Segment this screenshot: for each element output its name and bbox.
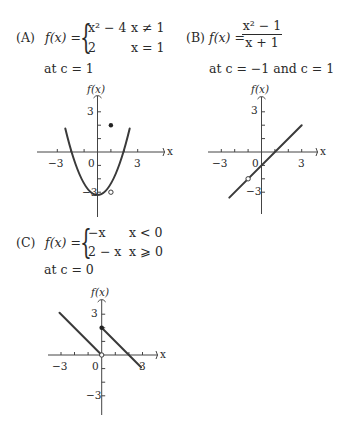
open-point [100,353,104,357]
x-tick: 3 [139,360,146,372]
y-axis-label: f(x) [91,286,109,298]
graph-c-plot [0,0,344,440]
x-axis-label: x [160,348,166,360]
y-tick: 3 [91,307,98,319]
closed-point [99,326,104,331]
x-tick: −3 [52,360,67,372]
y-tick: −3 [86,389,101,401]
x-tick: 0 [92,360,99,372]
